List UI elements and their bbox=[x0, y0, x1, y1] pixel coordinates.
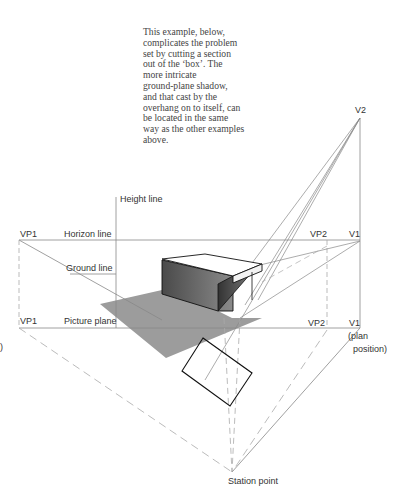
perspective-diagram: This example, below, complicates the pro… bbox=[0, 0, 399, 500]
label-plan: (plan bbox=[348, 331, 368, 341]
label-stray-paren: ) bbox=[0, 342, 3, 352]
label-height-line: Height line bbox=[120, 194, 163, 204]
plan-rectangle bbox=[182, 338, 252, 406]
label-position: position) bbox=[353, 344, 387, 354]
label-station-point: Station point bbox=[228, 476, 279, 486]
label-v2: V2 bbox=[355, 105, 366, 115]
label-vp1-picture: VP1 bbox=[20, 316, 37, 326]
label-v1-picture: V1 bbox=[349, 318, 360, 328]
label-v1-horizon: V1 bbox=[349, 229, 360, 239]
station-ray-vp1 bbox=[19, 328, 232, 472]
label-vp2-horizon: VP2 bbox=[310, 229, 327, 239]
vp2-dashed-ray bbox=[262, 246, 327, 282]
v2-rays bbox=[205, 118, 360, 380]
v1-rays bbox=[240, 241, 360, 318]
station-ray-v1 bbox=[232, 328, 360, 472]
label-ground-line: Ground line bbox=[66, 263, 113, 273]
label-picture-plane: Picture plane bbox=[64, 316, 117, 326]
label-vp2-picture: VP2 bbox=[308, 318, 325, 328]
label-horizon-line: Horizon line bbox=[64, 229, 112, 239]
label-vp1-horizon: VP1 bbox=[20, 229, 37, 239]
vp1-diagonal bbox=[19, 240, 162, 320]
station-ray-vp2 bbox=[232, 330, 327, 472]
station-ray-plan-b bbox=[232, 318, 240, 472]
diagram-canvas: Height line VP1 Horizon line Ground line… bbox=[0, 0, 399, 500]
